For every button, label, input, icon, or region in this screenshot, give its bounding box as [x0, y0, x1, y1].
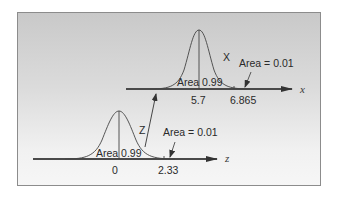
z-variable-label: Z	[139, 124, 146, 136]
normal-distribution-transform-diagram: Area 0.99 Area = 0.01 X x 5.7 6.865 Area…	[0, 0, 339, 202]
z-tail-area-label: Area = 0.01	[163, 126, 218, 138]
x-variable-label: X	[223, 51, 230, 63]
x-tail-area-label: Area = 0.01	[239, 57, 294, 69]
z-axis-label: z	[224, 152, 230, 164]
x-central-area-label: Area 0.99	[177, 76, 223, 88]
z-mean-tick-label: 0	[112, 164, 118, 176]
transform-arrow	[145, 94, 156, 147]
x-axis-label: x	[299, 83, 305, 95]
x-mean-tick-label: 5.7	[191, 94, 206, 106]
upper-distribution: Area 0.99 Area = 0.01 X x 5.7 6.865	[126, 30, 305, 106]
lower-distribution: Area 0.99 Area = 0.01 Z z 0 2.33	[33, 111, 230, 176]
x-cutoff-tick-label: 6.865	[230, 94, 256, 106]
z-cutoff-tick-label: 2.33	[158, 164, 179, 176]
z-tail-pointer	[170, 142, 175, 157]
z-central-area-label: Area 0.99	[96, 147, 142, 159]
x-tail-pointer	[245, 72, 251, 87]
